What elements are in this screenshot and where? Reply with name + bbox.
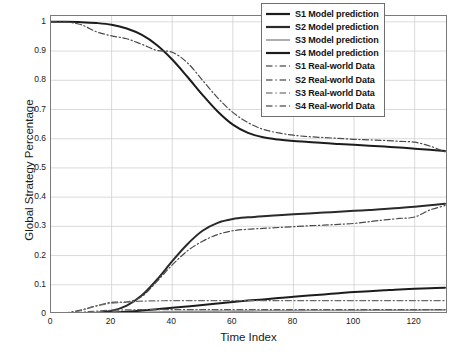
y-tick-label: 0: [2, 308, 46, 318]
legend-line-sample: [265, 34, 291, 46]
legend-item-label: S2 Real-world Data: [295, 75, 375, 85]
y-tick-label: 0.7: [2, 104, 46, 114]
y-tick-label: 0.6: [2, 133, 46, 143]
x-axis-title: Time Index: [50, 331, 447, 343]
legend-line-sample: [265, 47, 291, 59]
legend-item-label: S3 Real-world Data: [295, 88, 375, 98]
x-tick-label: 60: [227, 316, 236, 326]
legend-item[interactable]: S3 Model prediction: [265, 33, 379, 46]
legend-line-sample: [265, 87, 291, 99]
legend-line-sample: [265, 100, 291, 112]
y-tick-label: 0.5: [2, 162, 46, 172]
legend-item-label: S4 Model prediction: [295, 48, 379, 58]
x-axis-tick-labels: 020406080100120: [50, 316, 447, 330]
plot-area: [50, 15, 447, 313]
y-tick-label: 0.9: [2, 45, 46, 55]
x-tick-label: 0: [48, 316, 53, 326]
legend-item[interactable]: S2 Model prediction: [265, 20, 379, 33]
chart-legend: S1 Model predictionS2 Model predictionS3…: [261, 3, 385, 117]
legend-item-label: S2 Model prediction: [295, 22, 379, 32]
legend-item[interactable]: S3 Real-world Data: [265, 86, 379, 99]
legend-line-sample: [265, 21, 291, 33]
y-tick-label: 0.3: [2, 220, 46, 230]
legend-item-label: S4 Real-world Data: [295, 101, 375, 111]
legend-item[interactable]: S1 Real-world Data: [265, 60, 379, 73]
y-tick-label: 0.1: [2, 279, 46, 289]
y-tick-label: 1: [2, 16, 46, 26]
x-tick-label: 80: [288, 316, 297, 326]
series-line: [51, 22, 445, 151]
series-line: [51, 206, 445, 313]
legend-item-label: S3 Model prediction: [295, 35, 379, 45]
legend-item[interactable]: S4 Model prediction: [265, 47, 379, 60]
legend-item[interactable]: S4 Real-world Data: [265, 99, 379, 112]
chart-canvas: [51, 16, 447, 313]
grid-lines: [51, 16, 447, 313]
x-tick-label: 20: [106, 316, 115, 326]
x-tick-label: 40: [166, 316, 175, 326]
legend-line-sample: [265, 60, 291, 72]
legend-item[interactable]: S1 Model prediction: [265, 7, 379, 20]
y-axis-tick-labels: 00.10.20.30.40.50.60.70.80.91: [0, 15, 46, 313]
y-tick-label: 0.4: [2, 191, 46, 201]
legend-item-label: S1 Real-world Data: [295, 61, 375, 71]
y-tick-label: 0.8: [2, 74, 46, 84]
legend-item-label: S1 Model prediction: [295, 9, 379, 19]
chart-figure: Global Strategy Percentage 00.10.20.30.4…: [0, 0, 462, 356]
legend-line-sample: [265, 8, 291, 20]
legend-line-sample: [265, 74, 291, 86]
x-tick-label: 120: [407, 316, 421, 326]
y-tick-label: 0.2: [2, 250, 46, 260]
legend-item[interactable]: S2 Real-world Data: [265, 73, 379, 86]
x-tick-label: 100: [346, 316, 360, 326]
